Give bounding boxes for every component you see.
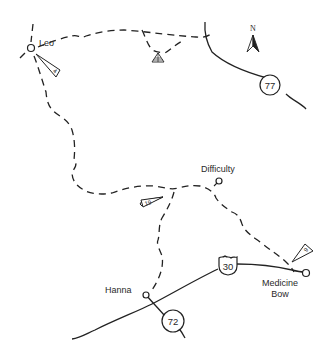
highway-77-shield: 77 <box>260 75 280 95</box>
highway-77-road <box>205 22 277 84</box>
route-map: Leo Difficulty Hanna Medicine Bow 77 72 … <box>0 0 333 363</box>
highway-72-shield: 72 <box>162 310 184 332</box>
highway-30-road <box>72 269 218 339</box>
trail-leo-east <box>38 30 212 47</box>
hanna-label: Hanna <box>105 285 132 295</box>
campground-icon <box>152 53 164 62</box>
route-marker-9-flag-icon <box>292 244 313 262</box>
route-marker-19: 19 <box>140 197 163 207</box>
trail-campground-loop <box>142 30 184 53</box>
highway-77-number: 77 <box>265 80 276 91</box>
highway-30-shield: 30 <box>219 256 237 275</box>
trail-to-hanna <box>152 192 174 290</box>
highway-30-number: 30 <box>223 261 234 272</box>
highway-77-road-south <box>286 94 306 109</box>
leo-marker <box>28 45 35 52</box>
medicine-bow-label-line2: Bow <box>271 289 289 299</box>
town-hanna[interactable]: Hanna <box>105 285 149 298</box>
leo-label: Leo <box>39 38 54 48</box>
hanna-marker <box>143 292 149 298</box>
difficulty-label: Difficulty <box>201 164 235 174</box>
medicine-bow-marker <box>303 270 310 277</box>
highway-72-number: 72 <box>168 316 179 327</box>
trail-leo-north <box>31 24 33 42</box>
medicine-bow-label-line1: Medicine <box>262 278 298 288</box>
trail-leo-west <box>20 51 27 58</box>
trail-leo-south <box>34 56 294 272</box>
town-medicine-bow[interactable]: Medicine Bow <box>262 270 310 300</box>
route-marker-9: 9 <box>292 244 313 262</box>
north-arrow-icon: N <box>247 24 259 52</box>
town-difficulty[interactable]: Difficulty <box>201 164 235 186</box>
north-label: N <box>250 24 256 33</box>
difficulty-connector <box>214 183 217 186</box>
